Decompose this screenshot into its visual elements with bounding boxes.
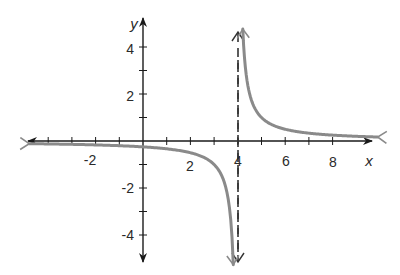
x-tick-label-6: 6	[282, 153, 290, 169]
y-tick-label-4: 4	[126, 41, 134, 57]
x-tick-label-neg2: -2	[84, 152, 97, 168]
y-tick-label-neg4: -4	[122, 227, 135, 243]
y-tick-label-neg2: -2	[122, 180, 135, 196]
y-axis	[139, 18, 147, 262]
y-axis-label: y	[129, 15, 139, 32]
x-tick-label-8: 8	[329, 154, 337, 170]
curve-right-branch	[243, 29, 378, 137]
y-tick-label-2: 2	[126, 88, 134, 104]
x-axis-label: x	[364, 152, 373, 169]
curve-left-branch	[29, 144, 233, 265]
rational-function-graph: -2 2 4 6 8 x 4 2 -2 -4 y	[0, 0, 400, 275]
x-tick-label-4: 4	[234, 153, 242, 169]
x-tick-label-2: 2	[186, 158, 194, 174]
